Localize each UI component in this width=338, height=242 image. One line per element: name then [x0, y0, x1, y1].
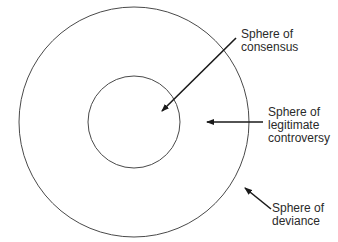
- label-line: controversy: [268, 132, 330, 145]
- label-sphere-of-deviance: Sphere of deviance: [272, 202, 324, 228]
- inner-circle-consensus: [88, 76, 180, 168]
- label-line: deviance: [272, 215, 324, 228]
- label-sphere-of-legitimate-controversy: Sphere of legitimate controversy: [268, 106, 330, 145]
- label-sphere-of-consensus: Sphere of consensus: [241, 28, 298, 54]
- arrow-consensus: [162, 38, 236, 111]
- label-line: consensus: [241, 41, 298, 54]
- arrow-deviance: [245, 188, 271, 209]
